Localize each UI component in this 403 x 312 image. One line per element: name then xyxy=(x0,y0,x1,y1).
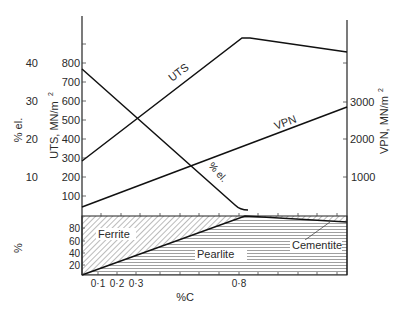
svg-text:3000: 3000 xyxy=(350,96,374,108)
data-series xyxy=(82,38,347,210)
svg-text:600: 600 xyxy=(62,95,80,107)
vpn-line-label: VPN xyxy=(272,113,297,132)
uts-tick-labels: 800 700 600 500 400 300 200 100 xyxy=(62,57,80,202)
svg-text:30: 30 xyxy=(26,95,38,107)
svg-text:0·3: 0·3 xyxy=(129,278,144,289)
svg-text:0·2: 0·2 xyxy=(110,278,125,289)
svg-text:40: 40 xyxy=(26,57,38,69)
svg-text:20: 20 xyxy=(69,260,81,271)
svg-text:10: 10 xyxy=(26,171,38,183)
uts-line xyxy=(82,38,347,161)
el-tick-labels: 40 30 20 10 xyxy=(26,57,38,183)
svg-text:2: 2 xyxy=(47,92,54,96)
svg-text:100: 100 xyxy=(62,190,80,202)
uts-axis-title: UTS, MN/m 2 xyxy=(47,92,60,159)
svg-text:2: 2 xyxy=(377,88,384,92)
cementite-label: Cementite xyxy=(292,239,342,251)
svg-text:VPN, MN/m: VPN, MN/m xyxy=(378,96,390,154)
svg-text:500: 500 xyxy=(62,114,80,126)
ferrite-label: Ferrite xyxy=(98,228,130,240)
svg-text:1000: 1000 xyxy=(351,171,375,183)
svg-text:400: 400 xyxy=(62,133,80,145)
svg-text:200: 200 xyxy=(62,171,80,183)
elongation-line xyxy=(82,69,248,210)
svg-text:2000: 2000 xyxy=(350,133,374,145)
x-axis-title: %C xyxy=(176,291,194,303)
pct-tick-labels: 80 60 40 20 xyxy=(69,223,81,271)
vpn-line xyxy=(82,107,347,207)
svg-text:60: 60 xyxy=(69,236,81,247)
vpn-axis-title: VPN, MN/m 2 xyxy=(377,88,390,154)
vpn-tick-labels: 3000 2000 1000 xyxy=(350,96,375,183)
svg-text:0·1: 0·1 xyxy=(91,278,106,289)
svg-text:0·8: 0·8 xyxy=(232,278,247,289)
svg-text:80: 80 xyxy=(69,223,81,234)
elongation-line-label: % el. xyxy=(207,160,230,184)
pearlite-label: Pearlite xyxy=(197,248,234,260)
svg-text:300: 300 xyxy=(62,152,80,164)
svg-text:800: 800 xyxy=(62,57,80,69)
svg-text:UTS, MN/m: UTS, MN/m xyxy=(48,101,60,158)
percent-axis-title: % xyxy=(12,243,24,253)
svg-text:40: 40 xyxy=(69,248,81,259)
steel-properties-chart: 40 30 20 10 800 700 600 500 400 300 200 … xyxy=(0,0,403,312)
svg-text:20: 20 xyxy=(26,133,38,145)
x-tick-labels: 0·1 0·2 0·3 0·8 xyxy=(91,278,247,289)
svg-text:700: 700 xyxy=(62,76,80,88)
elongation-axis-title: % el. xyxy=(12,118,24,142)
